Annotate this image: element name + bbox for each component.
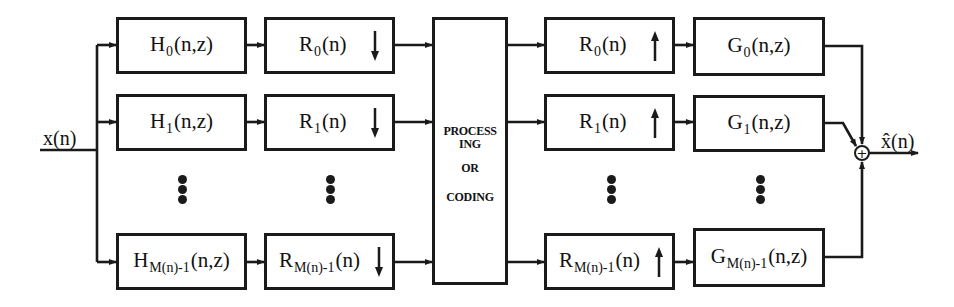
down-arrow-icon [374,247,384,277]
decimator-0: R0(n) [264,17,395,74]
down-arrow-icon [370,31,380,61]
ellipsis-interpolators [607,175,617,205]
interpolator-args: (n) [615,248,640,272]
filter-args: (n,z) [768,244,807,268]
filter-subscript: M(n)-1 [727,256,767,271]
interpolator-base: R [559,248,573,272]
processing-line-2: ING [459,138,481,151]
decimator-last: RM(n)-1(n) [264,233,395,290]
decimator-base: R [279,248,293,272]
up-arrow-icon [650,108,660,138]
interpolator-1: R1(n) [544,94,675,151]
decimator-base: R [299,32,313,56]
processing-line-4: CODING [446,191,494,204]
filter-subscript: 1 [166,121,173,136]
filter-args: (n,z) [752,110,791,134]
interpolator-0: R0(n) [544,17,675,74]
down-arrow-icon [370,108,380,138]
interpolator-args: (n) [602,109,627,133]
processing-line-3: OR [461,162,478,175]
decimator-subscript: M(n)-1 [294,260,334,275]
decimator-args: (n) [322,32,347,56]
synthesis-filter-0: G0(n,z) [693,17,825,76]
decimator-subscript: 0 [314,44,321,59]
filter-subscript: 0 [166,44,173,59]
filter-base: G [727,110,742,134]
filter-base: H [150,109,165,133]
filter-args: (n,z) [174,32,213,56]
summing-node: + [854,145,870,161]
interpolator-subscript: 1 [594,121,601,136]
output-label: x̂(n) [881,130,914,153]
plus-icon: + [857,147,868,160]
ellipsis-decimators [326,175,336,205]
filter-subscript: M(n)-1 [149,260,189,275]
interpolator-base: R [579,32,593,56]
analysis-filter-last: HM(n)-1(n,z) [116,233,247,290]
decimator-args: (n) [322,109,347,133]
ellipsis-analysis [178,175,188,205]
input-label: x(n) [43,127,76,150]
filter-args: (n,z) [191,248,230,272]
processing-line-1: PROCESS [443,125,496,138]
interpolator-subscript: 0 [594,44,601,59]
filter-subscript: 1 [744,122,751,137]
analysis-filter-0: H0(n,z) [116,17,247,74]
decimator-args: (n) [335,248,360,272]
interpolator-last: RM(n)-1(n) [544,233,675,290]
filter-base: G [727,33,742,57]
processing-or-coding-block: PROCESS ING OR CODING [432,17,508,285]
filter-base: H [150,32,165,56]
decimator-base: R [299,109,313,133]
filter-args: (n,z) [752,33,791,57]
interpolator-subscript: M(n)-1 [574,260,614,275]
filter-args: (n,z) [174,109,213,133]
interpolator-base: R [579,109,593,133]
filter-base: H [133,248,148,272]
ellipsis-synthesis [756,175,766,205]
interpolator-args: (n) [602,32,627,56]
filter-subscript: 0 [744,45,751,60]
analysis-filter-1: H1(n,z) [116,94,247,151]
up-arrow-icon [654,247,664,277]
up-arrow-icon [650,31,660,61]
synthesis-filter-1: G1(n,z) [693,95,825,152]
decimator-1: R1(n) [264,94,395,151]
filter-base: G [711,244,726,268]
synthesis-filter-last: GM(n)-1(n,z) [693,228,825,287]
decimator-subscript: 1 [314,121,321,136]
